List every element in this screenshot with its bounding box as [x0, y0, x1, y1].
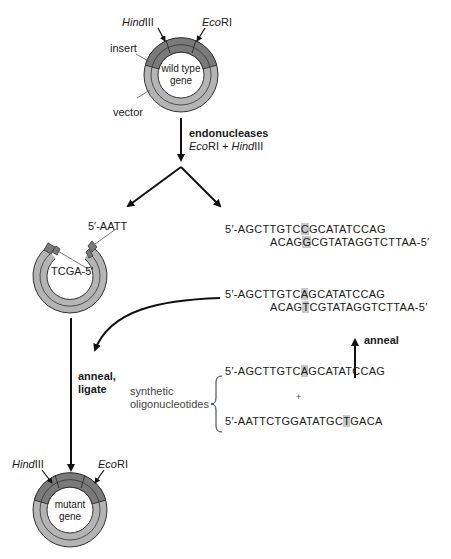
anneal-ligate-line1: anneal,	[78, 370, 116, 383]
wild-base-highlight: G	[302, 236, 311, 248]
seq-part: 5′-AATTCTGGATATGC	[225, 415, 343, 427]
anneal-ligate-line2: ligate	[78, 383, 116, 396]
wild-base-highlight: C	[301, 223, 309, 235]
seq-part: 5′-AGCTTGTC	[225, 288, 301, 300]
seq-part: CGTATAGGTCTTAA-5′	[311, 236, 429, 248]
enzyme1-roman: RI +	[208, 140, 232, 152]
diagram-graphics	[0, 0, 451, 559]
hind-roman: III	[35, 458, 44, 470]
insert-label: insert	[110, 42, 137, 55]
wild-type-line2: gene	[155, 75, 207, 87]
sticky-end-top-label: 5′-AATT	[88, 220, 127, 233]
mutant-duplex-top-strand: 5′-AGCTTGTCAGCATATCCAG	[225, 288, 385, 301]
seq-part: GCATATCCAG	[308, 365, 385, 377]
ecori-site-label-bottom: EcoRI	[98, 458, 128, 471]
mutant-line2: gene	[44, 511, 96, 523]
seq-part: GCATATCCAG	[308, 288, 385, 300]
hind-italic: Hind	[122, 16, 145, 28]
hind-roman: III	[145, 16, 154, 28]
seq-part: ACAG	[270, 236, 302, 248]
enzyme2-italic: Hind	[232, 140, 255, 152]
ecori-site-label-top: EcoRI	[202, 16, 232, 29]
oligos-label-line1: synthetic	[130, 385, 209, 398]
wild-type-line1: wild type	[155, 63, 207, 75]
eco-italic: Eco	[98, 458, 117, 470]
wild-fragment-bottom-strand: ACAGGCGTATAGGTCTTAA-5′	[270, 236, 429, 249]
sticky-end-bottom-label: TCGA-5′	[51, 265, 93, 278]
mutant-gene-label: mutant gene	[44, 499, 96, 523]
plus-sign: +	[296, 391, 301, 404]
hind-italic: Hind	[12, 458, 35, 470]
oligo-2: 5′-AATTCTGGATATGCTGACA	[225, 415, 383, 428]
wild-fragment-top-strand: 5′-AGCTTGTCCGCATATCCAG	[225, 223, 386, 236]
hindiii-site-label-bottom: HindIII	[12, 458, 44, 471]
seq-part: GCATATCCAG	[309, 223, 386, 235]
digest-label: endonucleases EcoRI + HindIII	[189, 127, 268, 153]
seq-part: ACAG	[270, 301, 302, 313]
eco-italic: Eco	[202, 16, 221, 28]
mutant-duplex-bottom-strand: ACAGTCGTATAGGTCTTAA-5′	[270, 301, 428, 314]
endonucleases-label: endonucleases	[189, 127, 268, 140]
seq-part: 5′-AGCTTGTC	[225, 365, 301, 377]
enzyme-names: EcoRI + HindIII	[189, 140, 268, 153]
oligo-1: 5′-AGCTTGTCAGCATATCCAG	[225, 365, 385, 378]
hindiii-site-label-top: HindIII	[122, 16, 154, 29]
enzyme2-roman: III	[254, 140, 263, 152]
enzyme1-italic: Eco	[189, 140, 208, 152]
anneal-ligate-label: anneal, ligate	[78, 370, 116, 396]
mutant-line1: mutant	[44, 499, 96, 511]
seq-part: CGTATAGGTCTTAA-5′	[309, 301, 427, 313]
synthetic-oligos-label: synthetic oligonucleotides	[130, 385, 209, 411]
seq-part: GACA	[350, 415, 382, 427]
seq-part: 5′-AGCTTGTC	[225, 223, 301, 235]
vector-label: vector	[113, 106, 143, 119]
anneal-label: anneal	[364, 334, 399, 347]
oligos-label-line2: oligonucleotides	[130, 398, 209, 411]
eco-roman: RI	[117, 458, 128, 470]
eco-roman: RI	[221, 16, 232, 28]
wild-type-gene-label: wild type gene	[155, 63, 207, 87]
